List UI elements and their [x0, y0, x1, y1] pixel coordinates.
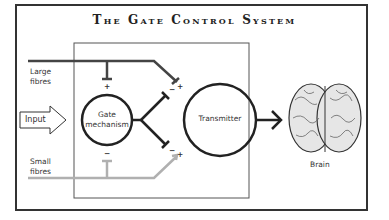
- transmitter-label: Transmitter: [190, 114, 250, 124]
- transmitter-bottom-minus: −: [169, 146, 175, 156]
- gate-mechanism-label: Gatemechanism: [84, 110, 130, 130]
- large-fibres-label: Largefibres: [30, 67, 51, 87]
- transmitter-bottom-plus: +: [177, 150, 183, 160]
- gate-output-fork: [132, 92, 169, 148]
- transmitter-top-plus: +: [177, 82, 183, 92]
- transmitter-top-minus: −: [169, 85, 175, 95]
- output-arrow: [256, 111, 281, 129]
- gate-minus-sign: −: [104, 149, 110, 159]
- small-fibres-label: Smallfibres: [30, 157, 51, 177]
- diagram-graphics: [0, 0, 389, 220]
- gate-plus-sign: +: [104, 82, 110, 92]
- brain-label: Brain: [310, 160, 330, 170]
- input-label: Input: [25, 115, 46, 125]
- brain-illustration: [289, 84, 361, 152]
